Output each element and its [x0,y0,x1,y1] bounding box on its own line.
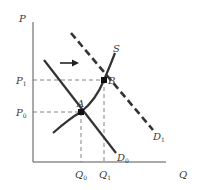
supply-demand-diagram: P Q P1 P0 Q0 Q1 S D0 D1 A B [0,0,198,190]
y-axis-label: P [18,13,26,24]
p1-label: P1 [15,75,27,87]
x-axis-label: Q [179,169,187,180]
demand-d0-label: D0 [116,152,129,164]
point-a-marker [78,109,84,115]
right-arrow-icon [60,60,79,67]
point-a-label: A [76,98,84,109]
p0-label: P0 [15,107,27,119]
supply-curve [53,53,115,133]
q1-label: Q1 [99,169,111,181]
point-b-label: B [107,75,115,86]
supply-label: S [113,43,120,54]
q0-label: Q0 [75,169,87,181]
demand-d1-label: D1 [152,131,165,143]
point-b-marker [101,77,107,83]
